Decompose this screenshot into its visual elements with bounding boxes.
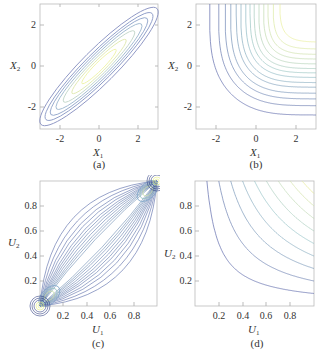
contour-plot-a: -2 0 2 -2 0 2 X1 X2 — [0, 0, 160, 170]
xlabel-d: U1 — [248, 323, 260, 337]
xtick-d-1: 0.4 — [237, 310, 250, 321]
ytick-c-1: 0.4 — [25, 250, 38, 261]
panel-a: -2 0 2 -2 0 2 X1 X2 — [0, 0, 160, 170]
caption-d: (d) — [237, 337, 277, 349]
panel-b: -2 0 2 -2 0 2 X1 X2 — [160, 0, 320, 170]
xtick-b-1: 0 — [254, 133, 259, 144]
xtick-d-2: 0.6 — [260, 310, 273, 321]
xlabel-c: U1 — [92, 323, 104, 337]
contour-plot-c: 0.2 0.4 0.6 0.8 0.2 0.4 0.6 0.8 U1 U2 — [0, 175, 160, 340]
contour-plot-d: 0.2 0.4 0.6 0.8 0.2 0.4 0.6 0.8 U1 U2 — [160, 175, 320, 340]
xtick-a-1: 0 — [97, 133, 102, 144]
figure-footnote — [0, 350, 320, 358]
xtick-a-0: -2 — [56, 133, 64, 144]
ytick-d-3: 0.8 — [180, 200, 193, 211]
ytick-a-0: -2 — [28, 101, 36, 112]
ytick-d-2: 0.6 — [180, 225, 193, 236]
xtick-c-1: 0.4 — [81, 310, 94, 321]
ytick-b-2: 2 — [187, 19, 192, 30]
ytick-d-0: 0.2 — [180, 275, 193, 286]
caption-c: (c) — [78, 337, 118, 349]
caption-b: (b) — [236, 158, 276, 170]
xtick-d-3: 0.8 — [284, 310, 297, 321]
caption-a: (a) — [79, 158, 119, 170]
ylabel-d: U2 — [164, 247, 176, 261]
xtick-c-2: 0.6 — [104, 310, 117, 321]
ytick-d-1: 0.4 — [180, 250, 193, 261]
ytick-a-1: 0 — [31, 60, 36, 71]
ytick-c-3: 0.8 — [25, 200, 38, 211]
xtick-b-0: -2 — [212, 133, 220, 144]
ytick-c-2: 0.6 — [25, 225, 38, 236]
ytick-b-0: -2 — [184, 101, 192, 112]
ytick-c-0: 0.2 — [25, 275, 38, 286]
ytick-b-1: 0 — [187, 60, 192, 71]
panel-c: 0.2 0.4 0.6 0.8 0.2 0.4 0.6 0.8 U1 U2 — [0, 175, 160, 340]
panel-d: 0.2 0.4 0.6 0.8 0.2 0.4 0.6 0.8 U1 U2 — [160, 175, 320, 340]
xtick-d-0: 0.2 — [213, 310, 226, 321]
xtick-c-0: 0.2 — [57, 310, 70, 321]
xtick-a-2: 2 — [136, 133, 141, 144]
ylabel-a: X2 — [9, 59, 21, 73]
contour-plot-b: -2 0 2 -2 0 2 X1 X2 — [160, 0, 320, 170]
xtick-b-2: 2 — [294, 133, 299, 144]
xtick-c-3: 0.8 — [128, 310, 141, 321]
ylabel-c: U2 — [8, 236, 20, 250]
ylabel-b: X2 — [167, 59, 179, 73]
ytick-a-2: 2 — [31, 19, 36, 30]
